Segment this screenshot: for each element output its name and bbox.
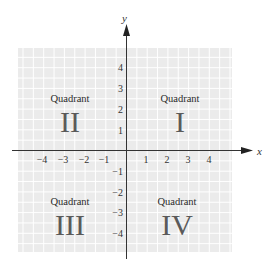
quadrant-iii-numeral: III	[55, 208, 85, 241]
y-tick-label: 3	[118, 83, 123, 94]
y-axis-arrowhead-icon	[123, 24, 130, 36]
y-tick-label: 2	[118, 104, 123, 115]
y-tick-label: −2	[112, 187, 123, 198]
quadrant-iv-numeral: IV	[161, 208, 193, 241]
quadrant-ii-label: Quadrant	[50, 93, 89, 104]
quadrant-iv-label: Quadrant	[157, 196, 196, 207]
quadrant-ii-numeral: II	[60, 105, 80, 138]
y-tick-label: −1	[112, 166, 123, 177]
x-tick-label: 1	[144, 154, 149, 165]
x-tick-label: 3	[186, 154, 191, 165]
x-axis-label: x	[256, 145, 262, 157]
y-tick-label: −4	[112, 228, 123, 239]
x-tick-label: −4	[37, 154, 48, 165]
x-tick-label: 2	[165, 154, 170, 165]
x-tick-label: −2	[79, 154, 90, 165]
y-tick-label: 1	[118, 125, 123, 136]
y-axis-label: y	[121, 12, 127, 24]
quadrant-i-label: Quadrant	[160, 93, 199, 104]
quadrant-iii-label: Quadrant	[50, 196, 89, 207]
x-tick-label: −3	[58, 154, 69, 165]
quadrant-i-numeral: I	[175, 105, 185, 138]
y-tick-label: 4	[118, 62, 123, 73]
coordinate-plane: x y −4 −3 −2 −1 1 2 3 4 4 3 2 1 −1 −2 −3…	[0, 0, 276, 268]
x-tick-label: −1	[99, 154, 110, 165]
x-axis-arrowhead-icon	[241, 147, 253, 154]
x-tick-label: 4	[207, 154, 212, 165]
y-tick-label: −3	[112, 207, 123, 218]
